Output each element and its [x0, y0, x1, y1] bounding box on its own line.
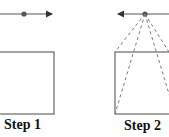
- step-1-figure: [0, 11, 54, 114]
- step-2-rectangle: [115, 52, 169, 114]
- step-1-label: Step 1: [4, 117, 41, 133]
- step-1-rectangle: [0, 52, 54, 114]
- step-2-label: Step 2: [124, 118, 161, 134]
- step-2-figure: [115, 11, 169, 114]
- step-2-projection-lines: [115, 14, 169, 114]
- step-1-point: [21, 11, 26, 16]
